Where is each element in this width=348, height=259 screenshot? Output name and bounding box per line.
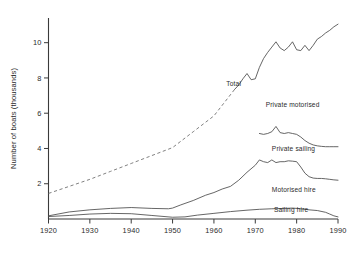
x-tick-label: 1940 bbox=[123, 226, 140, 235]
x-tick-label: 1990 bbox=[329, 226, 346, 235]
x-tick-label: 1950 bbox=[164, 226, 181, 235]
chart-container: 246810 19201930194019501960197019801990 … bbox=[0, 0, 348, 259]
x-tick-label: 1970 bbox=[247, 226, 264, 235]
y-tick-label: 2 bbox=[37, 179, 41, 188]
series-label-private-motorised: Private motorised bbox=[266, 101, 320, 108]
chart-series-labels: TotalPrivate motorisedPrivate sailingMot… bbox=[226, 80, 319, 214]
y-axis-ticks: 246810 bbox=[33, 38, 49, 188]
series-label-motorised-hire: Motorised hire bbox=[272, 186, 316, 193]
series-label-private-sailing: Private sailing bbox=[272, 145, 315, 153]
y-tick-label: 4 bbox=[37, 144, 41, 153]
series-path-total bbox=[235, 24, 338, 89]
y-axis-title: Number of boats (thousands) bbox=[9, 68, 18, 169]
series-label-total: Total bbox=[226, 80, 241, 87]
x-tick-label: 1920 bbox=[40, 226, 57, 235]
y-axis-title-group: Number of boats (thousands) bbox=[9, 68, 18, 169]
y-tick-label: 6 bbox=[37, 109, 41, 118]
boats-line-chart: 246810 19201930194019501960197019801990 … bbox=[0, 0, 348, 259]
y-tick-label: 10 bbox=[33, 38, 42, 47]
x-tick-label: 1960 bbox=[205, 226, 222, 235]
x-axis-ticks: 19201930194019501960197019801990 bbox=[40, 219, 347, 235]
series-path-total bbox=[49, 89, 235, 193]
series-label-sailing-hire: Sailing hire bbox=[274, 206, 309, 214]
x-tick-label: 1930 bbox=[81, 226, 98, 235]
x-tick-label: 1980 bbox=[288, 226, 305, 235]
series-path-private-motorised bbox=[259, 126, 338, 146]
y-tick-label: 8 bbox=[37, 74, 41, 83]
